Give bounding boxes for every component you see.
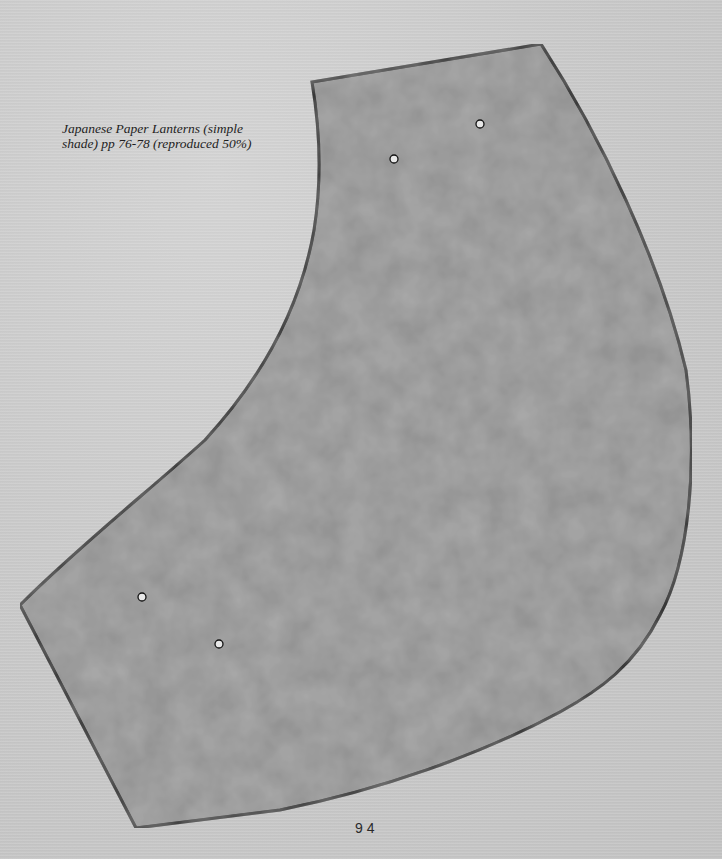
caption-line-2: shade) pp 76-78 (reproduced 50%) xyxy=(62,136,292,151)
pattern-piece-outline xyxy=(20,44,691,828)
registration-dot xyxy=(215,640,223,648)
pattern-page: Japanese Paper Lanterns (simple shade) p… xyxy=(0,0,722,859)
page-number: 94 xyxy=(355,820,379,836)
pattern-caption: Japanese Paper Lanterns (simple shade) p… xyxy=(62,121,292,151)
registration-dot xyxy=(476,120,484,128)
registration-dot xyxy=(138,593,146,601)
registration-dot xyxy=(390,155,398,163)
caption-line-1: Japanese Paper Lanterns (simple xyxy=(62,121,292,136)
